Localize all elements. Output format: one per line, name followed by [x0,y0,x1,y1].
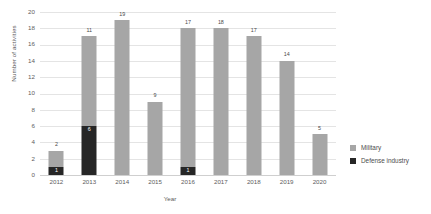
bar-segment-defense-industry[interactable]: 6 [82,126,97,175]
bar-stack[interactable]: 18 [213,28,228,175]
bar-group[interactable]: 116 [73,12,106,175]
bar-group[interactable]: 5 [303,12,336,175]
y-axis-tick-label: 2 [15,156,35,162]
x-axis-tick-label: 2017 [204,178,237,185]
legend-item[interactable]: Military [350,141,409,154]
bar-value-label: 14 [284,52,290,57]
y-axis-tick-label: 0 [15,172,35,178]
bar-value-label: 9 [154,93,157,98]
y-axis-tick-label: 10 [15,90,35,96]
y-axis-tick-label: 18 [15,25,35,31]
bar-segment-military[interactable]: 2 [49,151,64,167]
y-axis-tick-label: 20 [15,9,35,15]
y-axis-tick-label: 8 [15,107,35,113]
x-axis-tick-label: 2019 [270,178,303,185]
bar-stack[interactable]: 19 [115,20,130,175]
bar-group[interactable]: 171 [172,12,205,175]
y-axis-tick-label: 4 [15,139,35,145]
x-axis-tick-label: 2015 [139,178,172,185]
bar-segment-military[interactable]: 17 [180,28,195,167]
bar-stack[interactable]: 17 [246,36,261,175]
y-axis-tick-label: 16 [15,41,35,47]
bar-value-label: 2 [55,142,58,147]
y-axis-tick-label: 6 [15,123,35,129]
bar-group[interactable]: 18 [204,12,237,175]
y-axis-tick-label: 12 [15,74,35,80]
bar-stack[interactable]: 14 [279,61,294,175]
x-axis-title: Year [0,195,340,202]
x-axis-tick-label: 2014 [106,178,139,185]
y-axis-tick-label: 14 [15,58,35,64]
bar-group[interactable]: 9 [139,12,172,175]
bar-group[interactable]: 21 [40,12,73,175]
bar-segment-military[interactable]: 11 [82,36,97,126]
bar-segment-defense-industry[interactable]: 1 [49,167,64,175]
bar-group[interactable]: 19 [106,12,139,175]
bar-value-label: 11 [87,28,93,33]
x-axis-tick-label: 2013 [73,178,106,185]
bar-value-label: 18 [218,20,224,25]
chart-legend: MilitaryDefense industry [350,141,409,167]
legend-item-label: Military [361,144,381,151]
square-swatch-icon [350,158,356,164]
bar-stack[interactable]: 21 [49,151,64,175]
bar-value-label: 6 [88,127,91,132]
x-axis-line [40,175,336,176]
bar-stack[interactable]: 116 [82,36,97,175]
bar-segment-military[interactable]: 17 [246,36,261,175]
bar-value-label: 19 [119,12,125,17]
bar-value-label: 1 [55,168,58,173]
bar-value-label: 5 [318,126,321,131]
bar-segment-military[interactable]: 19 [115,20,130,175]
bar-segment-military[interactable]: 14 [279,61,294,175]
bar-segment-military[interactable]: 5 [312,134,327,175]
x-axis-tick-label: 2012 [40,178,73,185]
plot-area: 02468101214161820 211161991711817145 201… [40,12,336,175]
bar-segment-military[interactable]: 18 [213,28,228,175]
square-swatch-icon [350,145,356,151]
x-axis-tick-label: 2016 [172,178,205,185]
legend-item-label: Defense industry [361,157,409,164]
x-axis-tick-label: 2018 [237,178,270,185]
bar-stack[interactable]: 171 [180,28,195,175]
legend-item[interactable]: Defense industry [350,154,409,167]
bar-value-label: 17 [185,20,191,25]
bar-group[interactable]: 14 [270,12,303,175]
bar-value-label: 1 [186,168,189,173]
bar-group[interactable]: 17 [237,12,270,175]
bar-segment-military[interactable]: 9 [148,102,163,175]
bar-stack[interactable]: 5 [312,134,327,175]
bar-segment-defense-industry[interactable]: 1 [180,167,195,175]
bar-stack[interactable]: 9 [148,102,163,175]
bar-value-label: 17 [251,28,257,33]
stacked-bar-chart: Number of activities 02468101214161820 2… [0,0,431,214]
x-axis-tick-label: 2020 [303,178,336,185]
